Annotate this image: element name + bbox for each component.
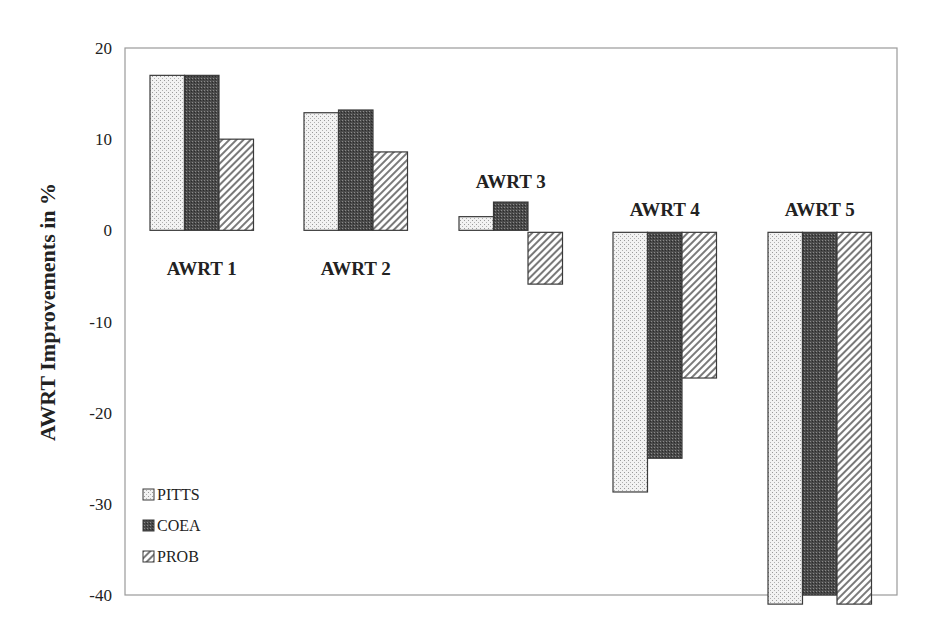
legend-item-coea: COEA — [143, 517, 201, 534]
legend-swatch-icon — [143, 520, 154, 531]
legend-item-pitts: PITTS — [143, 486, 200, 503]
bar-pitts — [768, 232, 803, 604]
y-tick-label: 20 — [95, 39, 112, 58]
legend-swatch-icon — [143, 489, 154, 500]
legend-item-prob: PROB — [143, 548, 199, 565]
bar-coea — [185, 75, 220, 230]
legend-label: COEA — [157, 517, 201, 534]
bar-coea — [494, 202, 529, 230]
category-label: AWRT 5 — [785, 199, 855, 220]
y-tick-label: -40 — [89, 586, 112, 605]
bar-prob — [837, 232, 872, 604]
bar-coea — [648, 232, 683, 458]
bar-pitts — [304, 113, 339, 231]
bar-group-awrt-3 — [459, 202, 563, 284]
bar-pitts — [459, 217, 494, 231]
y-tick-label: 10 — [95, 130, 112, 149]
bar-prob — [528, 232, 563, 284]
legend-label: PITTS — [157, 486, 200, 503]
bar-group-awrt-5 — [768, 232, 872, 604]
category-label: AWRT 4 — [630, 199, 701, 220]
y-tick-label: -10 — [89, 313, 112, 332]
bar-prob — [373, 152, 408, 230]
bar-prob — [219, 139, 254, 230]
legend-swatch-icon — [143, 551, 154, 562]
bar-coea — [339, 110, 374, 230]
bar-chart: 20100-10-20-30-40 AWRT 1AWRT 2AWRT 3AWRT… — [0, 0, 944, 642]
y-tick-label: -30 — [89, 495, 112, 514]
y-tick-label: -20 — [89, 404, 112, 423]
legend-label: PROB — [157, 548, 199, 565]
bar-group-awrt-4 — [613, 232, 717, 492]
category-label: AWRT 2 — [321, 258, 391, 279]
bar-prob — [682, 232, 717, 378]
y-axis-title: AWRT Improvements in % — [35, 183, 60, 441]
bar-group-awrt-2 — [304, 110, 408, 230]
bar-pitts — [613, 232, 648, 492]
y-tick-label: 0 — [104, 221, 113, 240]
bars — [150, 75, 872, 604]
bar-coea — [803, 232, 838, 595]
legend: PITTSCOEAPROB — [143, 486, 201, 565]
y-axis: 20100-10-20-30-40 — [89, 39, 112, 605]
category-label: AWRT 3 — [476, 171, 546, 192]
bar-pitts — [150, 75, 185, 230]
category-label: AWRT 1 — [167, 258, 237, 279]
bar-group-awrt-1 — [150, 75, 254, 230]
